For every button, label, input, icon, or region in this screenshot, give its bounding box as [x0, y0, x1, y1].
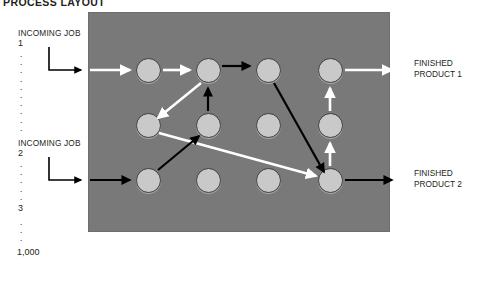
process-layout-diagram: PROCESS LAYOUT [0, 0, 483, 289]
incoming-job-last-number: 1,000 [17, 247, 40, 258]
job1-flow-path [90, 70, 392, 176]
job-dot: . [20, 124, 22, 132]
incoming-job-2-number: 2 [18, 148, 23, 159]
job1-seg-r1c2-to-r2c1 [158, 83, 201, 118]
incoming-job-1-number: 1 [18, 38, 23, 49]
job-dots-group-3: . . . [20, 218, 22, 243]
incoming-job-2-feeder [49, 157, 81, 180]
job1-seg-r2c1-to-r3c4 [159, 133, 316, 176]
job2-seg-r1c3-to-r3c4 [274, 83, 324, 172]
incoming-job-1-feeder [49, 47, 81, 70]
finished-product-2-label: FINISHED PRODUCT 2 [414, 168, 462, 189]
job-dot: . [20, 234, 22, 242]
finished-product-1-line2: PRODUCT 1 [414, 69, 462, 80]
job-dot: . [20, 193, 22, 201]
finished-product-2-line1: FINISHED [414, 168, 462, 179]
incoming-job-1-label: INCOMING JOB [18, 28, 81, 39]
job-dots-group-2: . . . . . [20, 160, 22, 201]
finished-product-1-line1: FINISHED [414, 58, 462, 69]
incoming-job-3-number: 3 [18, 203, 23, 214]
finished-product-2-line2: PRODUCT 2 [414, 179, 462, 190]
job2-flow-path [90, 66, 392, 180]
job2-seg-r3c1-to-r2c2 [158, 136, 199, 170]
job-dots-group-1: . . . . . . . . . . [20, 50, 22, 132]
incoming-job-2-label: INCOMING JOB [18, 138, 81, 149]
finished-product-1-label: FINISHED PRODUCT 1 [414, 58, 462, 79]
